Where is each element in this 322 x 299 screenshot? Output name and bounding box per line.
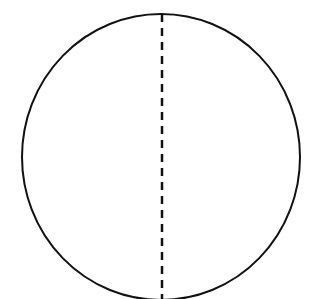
diagram-canvas	[0, 0, 322, 299]
circle-diagram	[0, 0, 322, 299]
